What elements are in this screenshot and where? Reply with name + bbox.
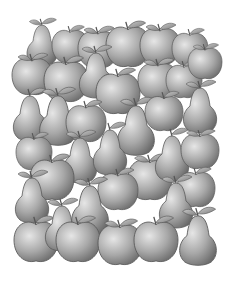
leaf-icon [128,21,146,28]
leaf-icon [190,28,204,34]
leaf-icon [70,25,84,31]
leaf-icon [42,18,56,24]
leaf-icon [62,198,78,204]
leaf-icon [198,207,216,214]
leaf-icon [200,80,216,86]
fruit-group [12,18,222,265]
apple-fruit [181,129,219,168]
leaf-icon [120,219,138,226]
fruit-illustration [0,0,236,287]
leaf-icon [118,68,136,75]
leaf-icon [160,23,176,29]
